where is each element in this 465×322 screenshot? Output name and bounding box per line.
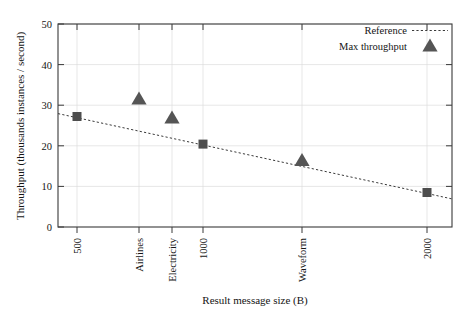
y-tick-label-20: 20: [42, 141, 53, 152]
data-point-square-2000: [423, 188, 432, 197]
legend-label-reference: Reference: [364, 25, 407, 36]
y-tick-label-0: 0: [47, 222, 52, 233]
y-tick-label-10: 10: [42, 181, 53, 192]
throughput-scatter-chart: 0 10 20 30 40 50 500 Airlines Elect: [0, 0, 465, 322]
y-tick-label-50: 50: [42, 19, 53, 30]
y-tick-label-30: 30: [42, 100, 53, 111]
y-tick-label-40: 40: [42, 60, 53, 71]
x-tick-label-airlines: Airlines: [134, 238, 145, 272]
data-point-square-500: [73, 112, 82, 121]
data-point-square-1000: [199, 140, 208, 149]
y-axis-title: Throughput (thousands instances / second…: [14, 32, 27, 221]
x-tick-label-electricity: Electricity: [167, 237, 178, 281]
chart-figure: 0 10 20 30 40 50 500 Airlines Elect: [0, 0, 465, 322]
x-axis-title: Result message size (B): [202, 294, 308, 307]
x-tick-label-500: 500: [72, 238, 83, 254]
x-tick-label-waveform: Waveform: [297, 238, 308, 282]
x-tick-label-2000: 2000: [422, 238, 433, 259]
legend-label-max-throughput: Max throughput: [339, 41, 407, 52]
x-tick-label-1000: 1000: [198, 238, 209, 259]
